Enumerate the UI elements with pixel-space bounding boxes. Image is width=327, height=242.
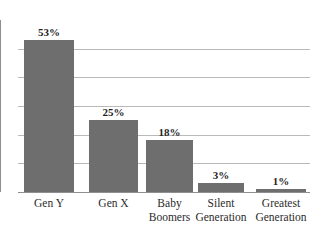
y-axis-tick-30 (0, 106, 1, 107)
bar[interactable] (89, 120, 138, 192)
bar[interactable] (256, 189, 306, 192)
bar-chart: 53%25%18%3%1% Gen YGen XBabyBoomersSilen… (0, 0, 327, 242)
x-axis-line (18, 192, 310, 193)
bar-slot: 25% (89, 20, 138, 192)
x-axis-label-line: Silent (189, 196, 253, 210)
x-axis-label: GreatestGeneration (247, 196, 315, 224)
x-axis-label-line: Gen Y (15, 196, 83, 210)
bar[interactable] (146, 140, 193, 192)
bar-value-label: 53% (24, 26, 74, 38)
bar-value-label: 18% (146, 126, 193, 138)
bar-slot: 53% (24, 20, 74, 192)
bar-value-label: 25% (89, 106, 138, 118)
bar[interactable] (198, 183, 244, 192)
bar-slot: 18% (146, 20, 193, 192)
y-axis-tick-10 (0, 163, 1, 164)
x-axis-label: Gen Y (15, 196, 83, 210)
bar-value-label: 3% (198, 169, 244, 181)
bar-slot: 1% (256, 20, 306, 192)
bar-value-label: 1% (256, 175, 306, 187)
bar-slot: 3% (198, 20, 244, 192)
bar[interactable] (24, 40, 74, 192)
x-axis-label-line: Greatest (247, 196, 315, 210)
y-axis-tick-40 (0, 77, 1, 78)
x-axis-label-line: Generation (247, 210, 315, 224)
y-axis-tick-20 (0, 135, 1, 136)
x-axis-label: SilentGeneration (189, 196, 253, 224)
x-axis-label-line: Generation (189, 210, 253, 224)
y-axis-tick-50 (0, 49, 1, 50)
bars-container: 53%25%18%3%1% (18, 20, 310, 192)
